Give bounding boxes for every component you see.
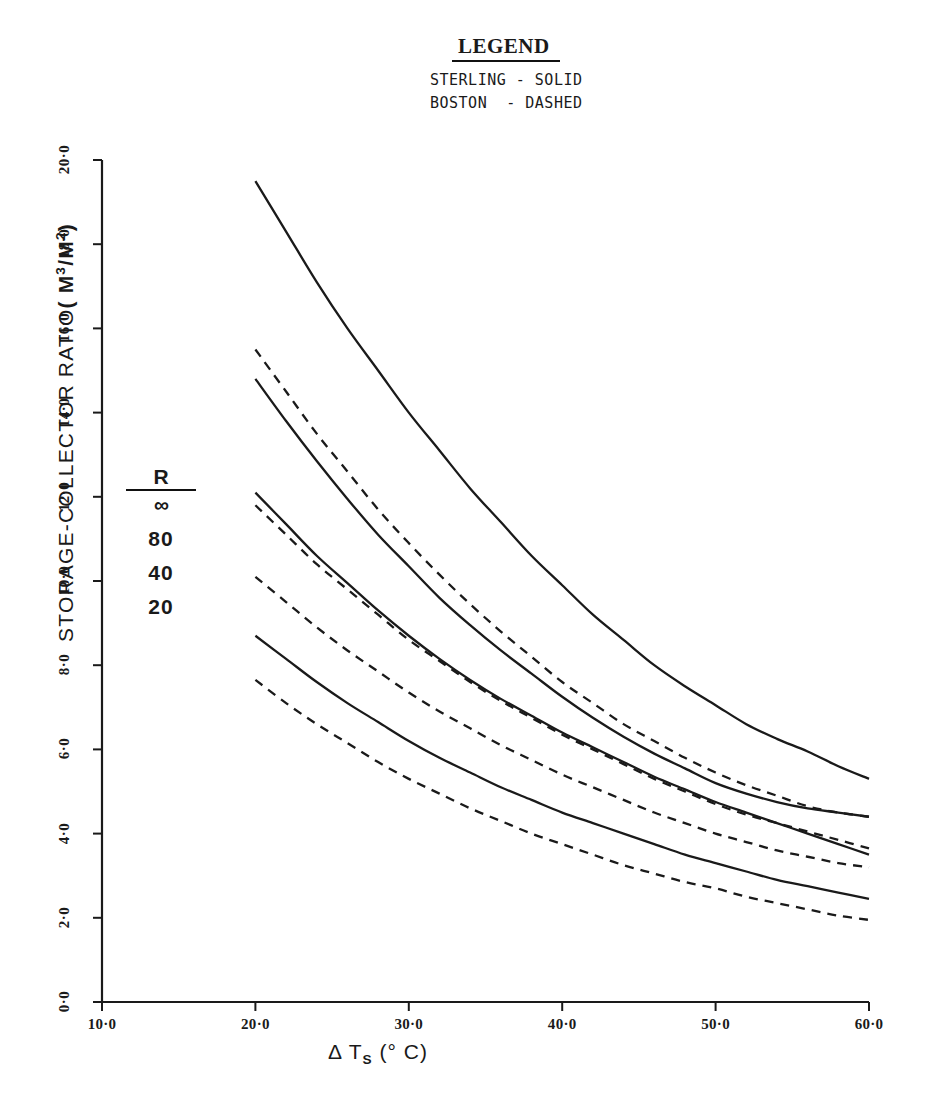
x-tick-label: 40·0 <box>532 1016 592 1033</box>
x-tick-label: 20·0 <box>225 1016 285 1033</box>
y-tick-label: 10·0 <box>56 558 73 604</box>
figure-container: LEGEND STERLING - SOLID BOSTON - DASHED … <box>0 0 926 1107</box>
axis-lines <box>102 160 869 1002</box>
x-tick-label: 60·0 <box>839 1016 899 1033</box>
data-curves <box>255 181 869 920</box>
tick-marks <box>93 160 869 1011</box>
y-tick-label: 8·0 <box>56 642 73 688</box>
y-tick-label: 4·0 <box>56 810 73 856</box>
x-tick-label: 10·0 <box>72 1016 132 1033</box>
data-curve <box>255 636 869 899</box>
x-tick-label: 50·0 <box>686 1016 746 1033</box>
data-curve <box>255 181 869 779</box>
y-tick-label: 18·0 <box>56 221 73 267</box>
plot-area <box>0 0 926 1107</box>
data-curve <box>255 493 869 855</box>
x-tick-label: 30·0 <box>379 1016 439 1033</box>
y-tick-label: 14·0 <box>56 389 73 435</box>
y-tick-label: 20·0 <box>56 137 73 183</box>
data-curve <box>255 505 869 848</box>
y-tick-label: 12·0 <box>56 473 73 519</box>
data-curve <box>255 680 869 920</box>
y-tick-label: 0·0 <box>56 979 73 1025</box>
y-tick-label: 16·0 <box>56 305 73 351</box>
y-tick-label: 2·0 <box>56 894 73 940</box>
data-curve <box>255 379 869 817</box>
y-tick-label: 6·0 <box>56 726 73 772</box>
